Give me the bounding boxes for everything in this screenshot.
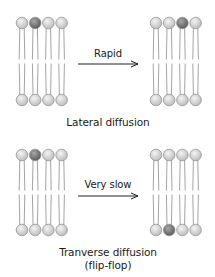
lipid-head bbox=[150, 224, 162, 236]
lipid-head bbox=[150, 94, 162, 106]
lipid-head bbox=[177, 94, 189, 106]
bilayer-before-0 bbox=[16, 17, 67, 106]
caption-transverse-diffusion: Tranverse diffusion bbox=[59, 246, 157, 258]
bilayer-after-0 bbox=[150, 17, 201, 106]
lipid-head bbox=[16, 149, 28, 161]
lipid-head bbox=[43, 149, 55, 161]
lipid-head-marked bbox=[29, 17, 41, 29]
lipid-head bbox=[16, 224, 28, 236]
lipid-head bbox=[56, 224, 68, 236]
lipid-head bbox=[29, 224, 41, 236]
lipid-head bbox=[29, 94, 41, 106]
lipid-head bbox=[43, 94, 55, 106]
bilayer-before-1 bbox=[16, 149, 67, 236]
caption-flip-flop: (flip-flop) bbox=[85, 259, 132, 271]
lipid-head bbox=[163, 17, 175, 29]
lipid-head bbox=[56, 149, 68, 161]
lipid-head bbox=[56, 17, 68, 29]
diffusion-diagram bbox=[0, 0, 215, 277]
lipid-head bbox=[163, 94, 175, 106]
lipid-head bbox=[43, 224, 55, 236]
lipid-head bbox=[177, 224, 189, 236]
arrow-label-rapid: Rapid bbox=[94, 48, 122, 59]
lipid-head bbox=[43, 17, 55, 29]
bilayer-after-1 bbox=[150, 149, 201, 236]
arrow-label-very-slow: Very slow bbox=[85, 179, 132, 190]
lipid-head bbox=[190, 149, 202, 161]
lipid-head-marked bbox=[163, 224, 175, 236]
lipid-head bbox=[150, 17, 162, 29]
lipid-head bbox=[150, 149, 162, 161]
lipid-head bbox=[16, 17, 28, 29]
lipid-head bbox=[190, 17, 202, 29]
lipid-head bbox=[190, 94, 202, 106]
lipid-head bbox=[56, 94, 68, 106]
caption-lateral-diffusion: Lateral diffusion bbox=[66, 116, 149, 128]
lipid-head bbox=[190, 224, 202, 236]
lipid-head-marked bbox=[177, 17, 189, 29]
lipid-head bbox=[16, 94, 28, 106]
lipid-head bbox=[177, 149, 189, 161]
lipid-head bbox=[163, 149, 175, 161]
lipid-head-marked bbox=[29, 149, 41, 161]
